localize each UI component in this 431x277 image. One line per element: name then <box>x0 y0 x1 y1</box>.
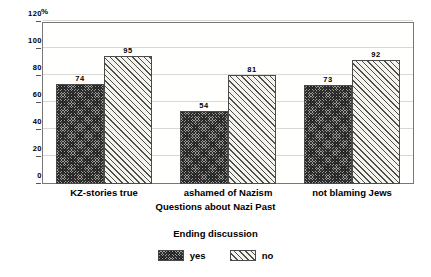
bar-value-label: 54 <box>199 101 208 110</box>
legend-entry-no[interactable]: no <box>230 250 274 261</box>
bar-value-label: 81 <box>247 65 256 74</box>
y-axis-tick-mark <box>36 156 41 157</box>
y-axis-tick-label: 80 <box>8 64 42 72</box>
y-axis-tick-label: 0 <box>8 172 42 180</box>
bar-yes-2: 73 <box>304 85 352 184</box>
legend: yesno <box>0 250 431 261</box>
y-axis-unit-label: % <box>41 7 48 16</box>
x-axis-category-label: KZ-stories true <box>70 187 138 199</box>
bar-no-2: 92 <box>352 60 400 184</box>
bar-value-label: 95 <box>123 46 132 55</box>
bar-no-0: 95 <box>104 56 152 184</box>
y-axis-tick-mark <box>36 48 41 49</box>
y-axis-tick-mark <box>36 21 41 22</box>
legend-label: yes <box>190 250 206 261</box>
bar-value-label: 73 <box>323 75 332 84</box>
bar-no-1: 81 <box>228 75 276 184</box>
legend-swatch-no <box>230 250 256 261</box>
x-axis-category-label: ashamed of Nazism <box>184 187 273 199</box>
y-axis-tick-mark <box>36 102 41 103</box>
gridline <box>43 20 413 21</box>
y-axis-tick-label: 20 <box>8 145 42 153</box>
bar-chart: % 020406080100120 749554817392 KZ-storie… <box>0 0 431 277</box>
legend-title: Ending discussion <box>0 228 431 240</box>
bar-yes-1: 54 <box>180 111 228 184</box>
y-axis-tick-mark <box>36 75 41 76</box>
legend-swatch-yes <box>158 250 184 261</box>
y-axis-tick-label: 120 <box>8 10 42 18</box>
y-axis-tick-label: 40 <box>8 118 42 126</box>
bar-yes-0: 74 <box>56 84 104 184</box>
bar-value-label: 74 <box>75 74 84 83</box>
y-axis-tick-mark <box>36 129 41 130</box>
y-axis-tick-label: 60 <box>8 91 42 99</box>
x-axis-category-label: not blaming Jews <box>312 187 392 199</box>
x-axis-category-labels: KZ-stories trueashamed of Nazismnot blam… <box>42 187 414 201</box>
legend-label: no <box>262 250 274 261</box>
y-axis-tick-label: 100 <box>8 37 42 45</box>
y-axis: 020406080100120 <box>0 22 42 184</box>
bar-value-label: 92 <box>371 50 380 59</box>
bars-layer: 749554817392 <box>42 22 414 184</box>
x-axis-title: Questions about Nazi Past <box>0 201 431 213</box>
y-axis-tick-mark <box>36 183 41 184</box>
legend-entry-yes[interactable]: yes <box>158 250 206 261</box>
